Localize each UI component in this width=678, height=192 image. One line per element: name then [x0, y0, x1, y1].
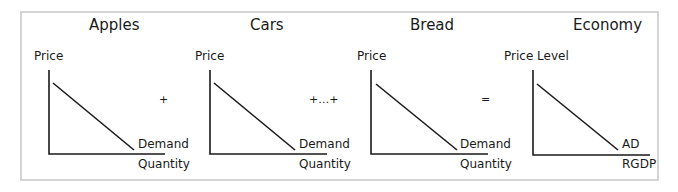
demand-curve-apples — [53, 83, 134, 150]
x-axis-label-bread: Quantity — [460, 157, 512, 171]
panel-title-apples: Apples — [89, 16, 140, 34]
demand-curve-cars — [214, 83, 295, 150]
curve-label-apples: Demand — [138, 137, 189, 151]
x-axis-label-economy: RGDP — [622, 157, 656, 171]
equals-operator: = — [481, 93, 490, 106]
panel-title-cars: Cars — [250, 16, 284, 34]
y-axis-label-apples: Price — [34, 49, 63, 63]
x-axis-label-apples: Quantity — [138, 157, 190, 171]
plus-ellipsis-operator: +…+ — [309, 93, 338, 106]
y-axis-label-cars: Price — [195, 49, 224, 63]
ad-curve-economy — [537, 84, 618, 150]
panel-title-economy: Economy — [573, 16, 642, 34]
panel-title-bread: Bread — [410, 16, 454, 34]
plus-operator: + — [159, 93, 168, 106]
y-axis-label-economy: Price Level — [504, 49, 569, 63]
curve-label-bread: Demand — [460, 137, 511, 151]
curve-label-cars: Demand — [299, 137, 350, 151]
curve-label-economy: AD — [622, 137, 639, 151]
x-axis-label-cars: Quantity — [299, 157, 351, 171]
demand-curve-bread — [376, 84, 457, 150]
y-axis-label-bread: Price — [357, 49, 386, 63]
